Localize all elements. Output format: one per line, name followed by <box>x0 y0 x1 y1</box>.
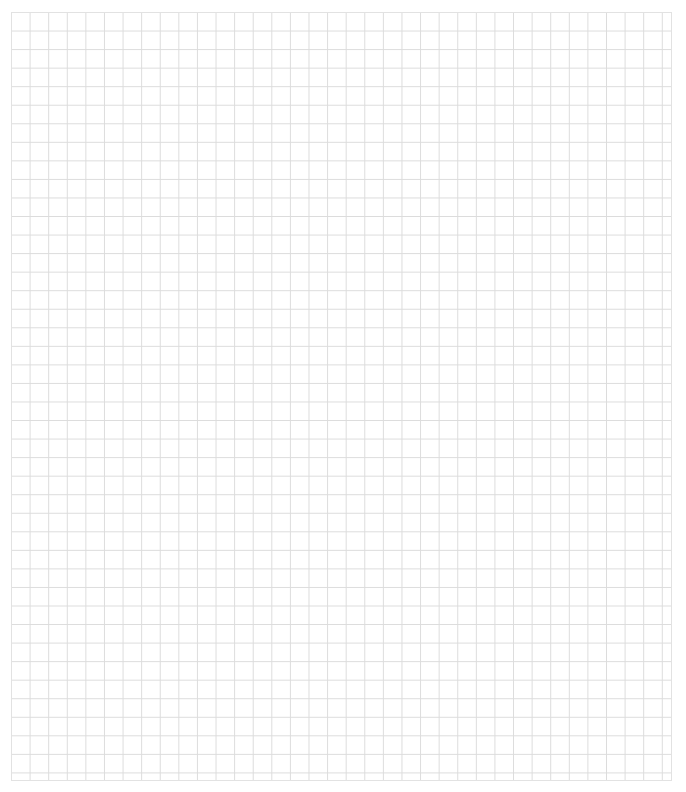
grid-canvas <box>11 12 672 781</box>
